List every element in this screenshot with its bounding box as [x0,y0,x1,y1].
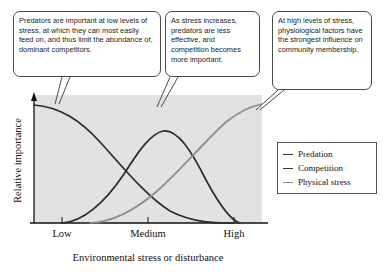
legend-item-competition: Competition [283,161,371,175]
x-tick-label-low: Low [52,228,71,239]
legend-dash-icon [283,154,293,155]
chart-legend: Predation Competition Physical stress [277,142,377,194]
figure-root: Predators are important at low levels of… [0,0,385,276]
x-tick-label-high: High [224,228,245,239]
legend-item-predation: Predation [283,147,371,161]
plot-area-background [34,95,262,223]
legend-label-competition: Competition [298,163,343,173]
x-axis-title: Environmental stress or disturbance [34,252,262,263]
legend-label-physical-stress: Physical stress [298,177,351,187]
y-axis-title: Relative importance [12,96,23,226]
callout-mid-stress: As stress increases, predators are less … [165,11,260,77]
callout-high-stress: At high levels of stress, physiological … [272,11,372,90]
callout-low-stress-text: Predators are important at low levels of… [19,16,155,55]
legend-dash-icon [283,182,293,183]
callout-mid-stress-text: As stress increases, predators are less … [171,16,254,65]
legend-label-predation: Predation [298,149,333,159]
legend-dash-icon [283,168,293,169]
callout-low-stress: Predators are important at low levels of… [13,11,161,77]
callout-high-stress-text: At high levels of stress, physiological … [278,16,366,55]
legend-item-physical-stress: Physical stress [283,175,371,189]
x-tick-label-medium: Medium [130,228,166,239]
